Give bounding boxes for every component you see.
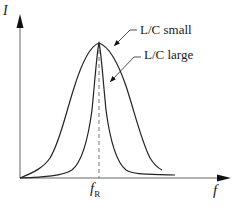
y-axis-label: I [3,3,8,19]
x-axis-arrow-icon [217,175,231,182]
resonance-chart [0,0,233,209]
curve-lc-small [20,43,162,178]
curve-lc-large [20,43,175,178]
fr-sub: R [94,189,100,199]
annotation-lc-small: L/C small [140,22,192,38]
x-axis-label: f [213,182,217,199]
y-axis-arrow-icon [17,14,24,28]
resonance-tick-label: fR [90,180,100,199]
leader-large [112,57,141,80]
annotation-lc-large: L/C large [144,47,193,63]
leader-small [116,30,137,44]
